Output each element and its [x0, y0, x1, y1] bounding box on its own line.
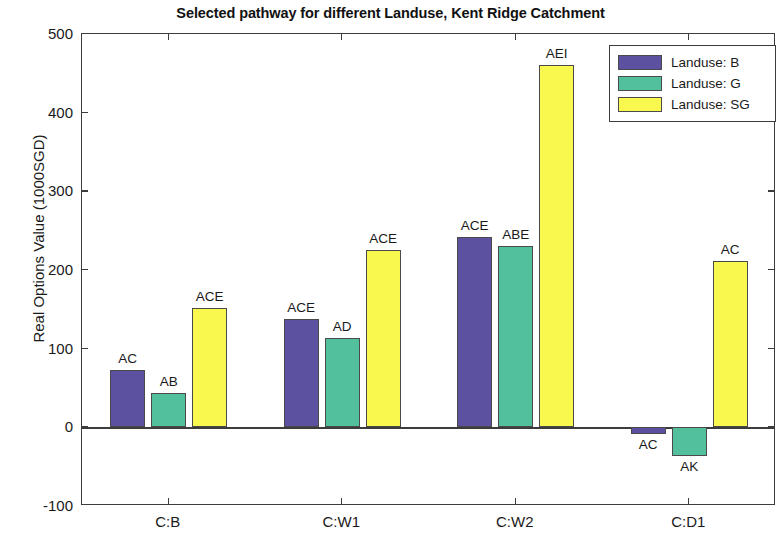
y-axis-right-tick-mark	[768, 269, 775, 270]
legend-item-landuse-b: Landuse: B	[618, 52, 767, 73]
legend-swatch-landuse-sg	[618, 97, 662, 112]
x-axis-tick-mark	[515, 498, 516, 505]
x-axis-top-tick-mark	[515, 33, 516, 40]
y-axis-tick-label: 500	[3, 25, 73, 42]
legend-item-landuse-g: Landuse: G	[618, 73, 767, 94]
x-axis-tick-mark	[341, 498, 342, 505]
x-axis-top-tick-mark	[168, 33, 169, 40]
y-axis-right-tick-mark	[768, 426, 775, 427]
x-axis-tick-label: C:W2	[455, 513, 575, 530]
y-axis-right-tick-mark	[768, 190, 775, 191]
chart-figure: Selected pathway for different Landuse, …	[0, 0, 781, 534]
y-axis-tick-label: 0	[3, 418, 73, 435]
chart-title: Selected pathway for different Landuse, …	[0, 5, 781, 21]
x-axis-tick-mark	[168, 498, 169, 505]
legend-label-landuse-g: Landuse: G	[671, 76, 741, 91]
legend-swatch-landuse-g	[618, 76, 662, 91]
x-axis-tick-label: C:D1	[628, 513, 748, 530]
y-axis-tick-label: 400	[3, 103, 73, 120]
x-axis-tick-label: C:W1	[281, 513, 401, 530]
x-axis-tick-mark	[688, 498, 689, 505]
x-axis-top-tick-mark	[688, 33, 689, 40]
legend-swatch-landuse-b	[618, 55, 662, 70]
y-axis-tick-label: 100	[3, 339, 73, 356]
y-axis-tick-label: -100	[3, 497, 73, 514]
chart-legend: Landuse: B Landuse: G Landuse: SG	[609, 45, 776, 122]
legend-label-landuse-b: Landuse: B	[671, 55, 739, 70]
legend-label-landuse-sg: Landuse: SG	[671, 97, 750, 112]
x-axis-tick-label: C:B	[108, 513, 228, 530]
y-axis: -1000100200300400500	[3, 33, 81, 505]
legend-item-landuse-sg: Landuse: SG	[618, 94, 767, 115]
x-axis-top-tick-mark	[341, 33, 342, 40]
y-axis-right-tick-mark	[768, 348, 775, 349]
y-axis-tick-label: 200	[3, 261, 73, 278]
y-axis-tick-label: 300	[3, 182, 73, 199]
